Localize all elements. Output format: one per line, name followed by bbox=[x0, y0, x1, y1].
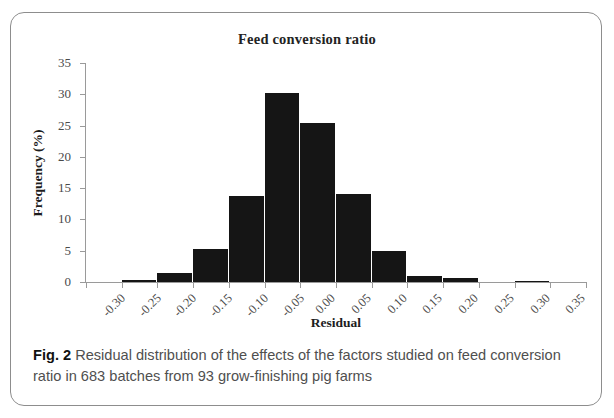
x-axis-tick bbox=[372, 282, 373, 288]
y-axis-tick-label: 15 bbox=[58, 180, 71, 196]
x-axis-tick bbox=[86, 282, 87, 288]
x-axis-tick bbox=[157, 282, 158, 288]
x-axis-tick bbox=[229, 282, 230, 288]
x-axis-tick bbox=[300, 282, 301, 288]
y-axis-tick-label: 20 bbox=[58, 149, 71, 165]
plot-area: 05101520253035 -0.30-0.25-0.20-0.15-0.10… bbox=[86, 63, 586, 282]
x-axis-tick-label: 0.00 bbox=[313, 291, 339, 317]
y-axis-line bbox=[85, 63, 86, 282]
chart-container: Feed conversion ratio Frequency (%) 0510… bbox=[11, 13, 602, 343]
figure-caption-text: Residual distribution of the effects of … bbox=[33, 347, 561, 384]
x-axis-tick-label: 0.40 bbox=[598, 291, 602, 317]
y-axis-tick-label: 30 bbox=[58, 86, 71, 102]
y-axis-tick: 30 bbox=[80, 94, 86, 95]
x-axis-tick bbox=[515, 282, 516, 288]
y-axis-tick-label: 0 bbox=[65, 274, 72, 290]
x-axis-tick bbox=[265, 282, 266, 288]
y-axis-tick-label: 5 bbox=[65, 243, 72, 259]
x-axis-tick-label: 0.30 bbox=[527, 291, 553, 317]
bar bbox=[407, 276, 443, 282]
y-axis-tick: 5 bbox=[80, 251, 86, 252]
x-axis-tick bbox=[122, 282, 123, 288]
bar bbox=[122, 280, 158, 282]
y-axis-tick: 10 bbox=[80, 219, 86, 220]
x-axis-tick bbox=[443, 282, 444, 288]
y-axis-tick: 20 bbox=[80, 157, 86, 158]
y-axis-tick-label: 25 bbox=[58, 118, 71, 134]
figure-caption: Fig. 2 Residual distribution of the effe… bbox=[33, 345, 593, 386]
bar bbox=[336, 194, 372, 282]
figure-panel: Feed conversion ratio Frequency (%) 0510… bbox=[10, 12, 602, 406]
x-axis-tick bbox=[336, 282, 337, 288]
x-axis-tick-label: 0.05 bbox=[348, 291, 374, 317]
chart-title: Feed conversion ratio bbox=[11, 31, 602, 48]
bar bbox=[372, 251, 408, 282]
x-axis-tick bbox=[586, 282, 587, 288]
x-axis-tick-label: 0.35 bbox=[563, 291, 589, 317]
y-axis-tick-label: 35 bbox=[58, 55, 71, 71]
bar bbox=[193, 249, 229, 282]
y-axis-title: Frequency (%) bbox=[29, 63, 47, 282]
x-axis-tick bbox=[193, 282, 194, 288]
y-axis-tick: 35 bbox=[80, 63, 86, 64]
bar bbox=[515, 281, 551, 282]
x-axis-tick-label: 0.15 bbox=[420, 291, 446, 317]
x-axis-tick bbox=[479, 282, 480, 288]
figure-label: Fig. 2 bbox=[33, 347, 71, 363]
x-axis-title: Residual bbox=[86, 315, 586, 331]
x-axis-tick-label: 0.25 bbox=[491, 291, 517, 317]
y-axis-tick: 25 bbox=[80, 126, 86, 127]
y-axis-title-label: Frequency (%) bbox=[30, 129, 46, 216]
x-axis-tick bbox=[550, 282, 551, 288]
x-axis-tick-label: 0.20 bbox=[456, 291, 482, 317]
x-axis-tick-label: 0.10 bbox=[384, 291, 410, 317]
x-axis-tick bbox=[407, 282, 408, 288]
bar bbox=[443, 278, 479, 282]
bar bbox=[229, 196, 265, 282]
bar bbox=[157, 273, 193, 282]
y-axis-tick-label: 10 bbox=[58, 211, 71, 227]
y-axis-tick: 15 bbox=[80, 188, 86, 189]
bar bbox=[300, 123, 336, 282]
bar bbox=[265, 93, 301, 282]
